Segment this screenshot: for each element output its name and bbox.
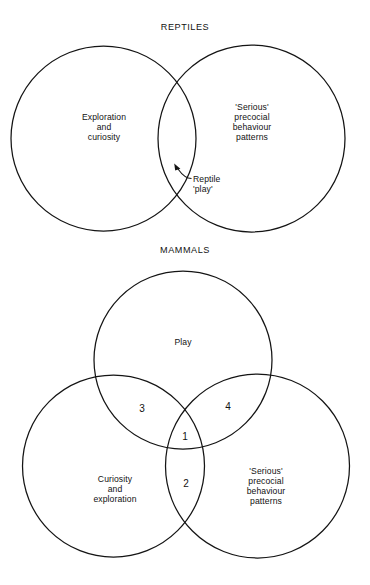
mammals-circle-play (94, 271, 272, 449)
reptiles-label-serious-precocial-behaviour-patterns: 'Serious' precocial behaviour patterns (204, 102, 300, 143)
mammals-region-label-3: 3 (131, 403, 153, 415)
reptiles-annotation-reptile-play: Reptile 'play' (193, 174, 263, 194)
reptile-play-arrow-icon (174, 164, 180, 171)
mammals-panel-title: MAMMALS (135, 245, 235, 256)
mammals-label-play: Play (152, 337, 214, 347)
mammals-region-label-1: 1 (174, 431, 196, 443)
mammals-region-label-2: 2 (175, 478, 197, 490)
reptile-play-leader-group (174, 164, 191, 179)
mammals-region-label-4: 4 (217, 401, 239, 413)
reptiles-label-exploration-and-curiosity: Exploration and curiosity (48, 112, 160, 142)
mammals-label-serious-precocial-behaviour-patterns: 'Serious' precocial behaviour patterns (218, 466, 314, 507)
mammals-venn-group (23, 271, 350, 558)
mammals-label-curiosity-and-exploration: Curiosity and exploration (56, 474, 174, 504)
reptiles-panel-title: REPTILES (135, 22, 235, 33)
mammals-circle-curiosity (23, 375, 205, 557)
venn-figure: REPTILES Exploration and curiosity 'Seri… (0, 0, 370, 585)
